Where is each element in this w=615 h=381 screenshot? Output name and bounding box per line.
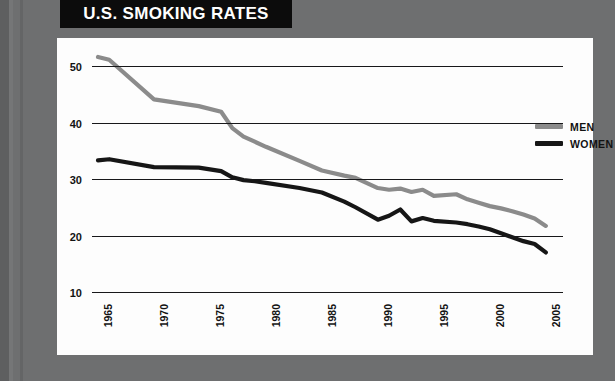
- series-line-women: [98, 159, 546, 252]
- chart-panel: 5040302010196519701975198019851990199520…: [57, 38, 593, 355]
- page-edge-band-mid: [9, 0, 13, 381]
- page-edge-band-inner: [20, 0, 23, 381]
- legend-swatch-men: [535, 124, 563, 129]
- legend-label-women: WOMEN: [570, 138, 613, 150]
- y-axis-tick-label: 10: [70, 287, 82, 299]
- legend-item-men: MEN: [535, 118, 613, 135]
- x-axis-tick-label: 1965: [102, 304, 114, 327]
- y-axis-tick-label: 50: [70, 61, 82, 73]
- series-line-men: [98, 57, 546, 226]
- page-title: U.S. SMOKING RATES: [83, 4, 269, 24]
- gridline: 50: [92, 66, 563, 67]
- x-axis-tick-label: 1985: [326, 304, 338, 327]
- gridline: 10: [92, 292, 563, 293]
- y-axis-tick-label: 40: [70, 118, 82, 130]
- x-axis-tick-label: 2000: [494, 304, 506, 327]
- x-axis-tick-label: 1980: [270, 304, 282, 327]
- gridline: 20: [92, 236, 563, 237]
- chart-legend: MEN WOMEN: [535, 118, 613, 152]
- x-axis-tick-label: 1995: [438, 304, 450, 327]
- legend-item-women: WOMEN: [535, 135, 613, 152]
- y-axis-tick-label: 20: [70, 231, 82, 243]
- plot-area: 5040302010196519701975198019851990199520…: [98, 66, 557, 292]
- gridline: 40: [92, 123, 563, 124]
- legend-swatch-women: [535, 141, 563, 146]
- x-axis-tick-label: 2005: [550, 304, 562, 327]
- page-edge-band-left: [0, 0, 9, 381]
- x-axis-tick-label: 1970: [158, 304, 170, 327]
- gridline: 30: [92, 179, 563, 180]
- x-axis-tick-label: 1975: [214, 304, 226, 327]
- x-axis-tick-label: 1990: [382, 304, 394, 327]
- title-banner: U.S. SMOKING RATES: [60, 0, 292, 28]
- y-axis-tick-label: 30: [70, 174, 82, 186]
- chart-page: U.S. SMOKING RATES PERCENT OF AMERICANS …: [0, 0, 615, 381]
- legend-label-men: MEN: [570, 121, 595, 133]
